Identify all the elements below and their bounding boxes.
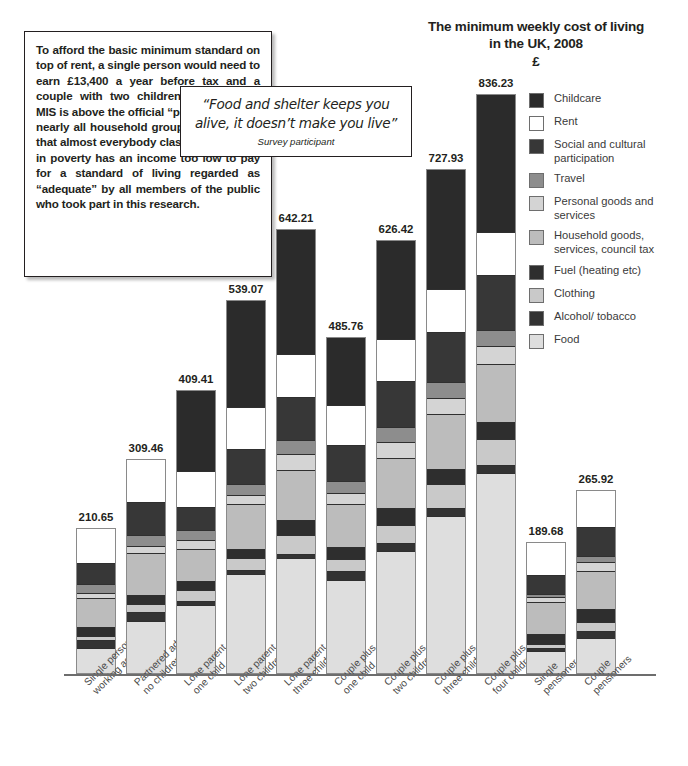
bar-segment[interactable] [376, 509, 416, 526]
bar-segment[interactable] [476, 331, 516, 348]
bar-segment[interactable] [276, 355, 316, 398]
bar-segment[interactable] [376, 240, 416, 341]
bar-segment[interactable] [326, 494, 366, 505]
bar-segment[interactable] [426, 509, 466, 517]
bar-segment[interactable] [476, 474, 516, 674]
bar-segment[interactable] [426, 383, 466, 398]
bar-segment[interactable] [76, 528, 116, 564]
legend-item[interactable]: Fuel (heating etc) [529, 264, 687, 280]
bar-segment[interactable] [426, 470, 466, 485]
bar-segment[interactable] [176, 591, 216, 602]
bar-segment[interactable] [576, 572, 616, 610]
bar-segment[interactable] [376, 443, 416, 459]
bar-column[interactable] [576, 490, 616, 674]
bar-segment[interactable] [376, 459, 416, 509]
bar-segment[interactable] [126, 459, 166, 503]
bar-segment[interactable] [276, 536, 316, 555]
bar-segment[interactable] [576, 490, 616, 529]
bar-segment[interactable] [126, 613, 166, 621]
bar-segment[interactable] [326, 406, 366, 446]
bar-segment[interactable] [176, 541, 216, 551]
bar-column[interactable] [226, 300, 266, 674]
bar-segment[interactable] [176, 390, 216, 472]
bar-segment[interactable] [376, 382, 416, 428]
bar-segment[interactable] [226, 505, 266, 549]
bar-segment[interactable] [176, 582, 216, 591]
bar-segment[interactable] [326, 548, 366, 560]
bar-segment[interactable] [76, 641, 116, 649]
bar-segment[interactable] [526, 603, 566, 635]
legend-item[interactable]: Personal goods and services [529, 195, 687, 222]
bar-segment[interactable] [426, 290, 466, 333]
bar-column[interactable] [476, 94, 516, 674]
bar-segment[interactable] [376, 526, 416, 544]
bar-segment[interactable] [76, 585, 116, 594]
bar-segment[interactable] [476, 365, 516, 423]
bar-segment[interactable] [576, 623, 616, 632]
bar-segment[interactable] [426, 399, 466, 416]
bar-segment[interactable] [576, 610, 616, 623]
bar-segment[interactable] [476, 94, 516, 233]
bar-segment[interactable] [176, 472, 216, 508]
bar-segment[interactable] [126, 503, 166, 536]
bar-segment[interactable] [276, 521, 316, 536]
bar-segment[interactable] [326, 560, 366, 572]
bar-segment[interactable] [126, 554, 166, 596]
bar-segment[interactable] [426, 333, 466, 383]
bar-segment[interactable] [576, 563, 616, 572]
bar-column[interactable] [276, 229, 316, 674]
bar-segment[interactable] [126, 596, 166, 605]
bar-segment[interactable] [376, 340, 416, 382]
bar-segment[interactable] [126, 536, 166, 547]
legend-item[interactable]: Clothing [529, 287, 687, 303]
bar-column[interactable] [126, 459, 166, 674]
bar-segment[interactable] [426, 415, 466, 470]
bar-segment[interactable] [276, 441, 316, 456]
bar-column[interactable] [326, 337, 366, 674]
bar-segment[interactable] [226, 300, 266, 408]
bar-segment[interactable] [476, 466, 516, 474]
bar-segment[interactable] [76, 564, 116, 585]
bar-segment[interactable] [326, 446, 366, 482]
bar-segment[interactable] [126, 547, 166, 554]
bar-segment[interactable] [76, 599, 116, 628]
bar-column[interactable] [426, 169, 466, 674]
bar-segment[interactable] [476, 276, 516, 330]
bar-segment[interactable] [376, 428, 416, 443]
legend-item[interactable]: Rent [529, 115, 687, 131]
bar-segment[interactable] [476, 347, 516, 365]
bar-segment[interactable] [126, 605, 166, 613]
bar-segment[interactable] [226, 559, 266, 570]
bar-segment[interactable] [176, 550, 216, 582]
bar-segment[interactable] [76, 628, 116, 637]
bar-segment[interactable] [226, 496, 266, 506]
bar-segment[interactable] [226, 485, 266, 496]
bar-column[interactable] [376, 240, 416, 674]
bar-segment[interactable] [276, 455, 316, 470]
legend-item[interactable]: Travel [529, 172, 687, 188]
bar-segment[interactable] [576, 528, 616, 556]
bar-segment[interactable] [526, 542, 566, 575]
bar-segment[interactable] [476, 233, 516, 277]
legend-item[interactable]: Childcare [529, 92, 687, 108]
bar-segment[interactable] [176, 508, 216, 531]
bar-segment[interactable] [226, 550, 266, 560]
legend-item[interactable]: Food [529, 333, 687, 349]
bar-column[interactable] [176, 390, 216, 674]
bar-segment[interactable] [426, 485, 466, 509]
bar-segment[interactable] [376, 544, 416, 552]
legend-item[interactable]: Alcohol/ tobacco [529, 310, 687, 326]
bar-segment[interactable] [326, 505, 366, 548]
bar-segment[interactable] [276, 229, 316, 355]
bar-segment[interactable] [226, 408, 266, 450]
bar-segment[interactable] [476, 423, 516, 440]
bar-segment[interactable] [176, 531, 216, 541]
bar-segment[interactable] [526, 576, 566, 595]
bar-segment[interactable] [326, 572, 366, 580]
bar-segment[interactable] [226, 450, 266, 485]
legend-item[interactable]: Household goods, services, council tax [529, 229, 687, 256]
bar-segment[interactable] [326, 337, 366, 406]
bar-segment[interactable] [276, 398, 316, 441]
bar-segment[interactable] [526, 635, 566, 645]
bar-segment[interactable] [326, 482, 366, 494]
